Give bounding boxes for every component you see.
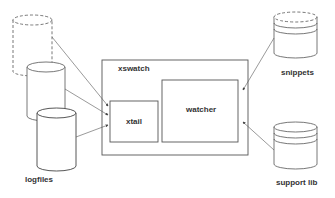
- snippets-label: snippets: [281, 68, 314, 77]
- xswatch-label: xswatch: [118, 64, 150, 73]
- support-lib-label: support lib: [276, 178, 317, 187]
- xtail-label: xtail: [126, 117, 142, 126]
- arrow-logfile-3-to-xtail: [76, 125, 108, 137]
- logfiles-label: logfiles: [25, 175, 53, 184]
- snippets-cylinder: [274, 12, 317, 58]
- watcher-label: watcher: [186, 105, 216, 114]
- xswatch-box: [102, 60, 248, 155]
- logfile-cylinder-3: [37, 108, 76, 171]
- support-lib-cylinder: [274, 122, 317, 169]
- diagram-canvas: [0, 0, 335, 198]
